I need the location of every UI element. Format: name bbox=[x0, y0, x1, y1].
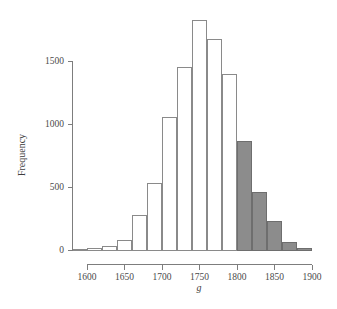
x-axis-title: g bbox=[197, 282, 202, 293]
x-axis-tick-label: 1800 bbox=[228, 272, 247, 282]
histogram-bar bbox=[237, 142, 251, 250]
histogram-bar bbox=[132, 216, 146, 250]
histogram-bar bbox=[267, 221, 281, 250]
histogram-bar bbox=[192, 21, 206, 250]
y-axis-tick-label: 1000 bbox=[45, 119, 64, 129]
histogram-bar bbox=[252, 192, 266, 250]
x-axis-tick-label: 1850 bbox=[265, 272, 284, 282]
histogram-bar bbox=[117, 240, 131, 250]
histogram-bar bbox=[282, 242, 296, 250]
histogram-bar bbox=[222, 75, 236, 250]
x-axis-tick-label: 1700 bbox=[153, 272, 172, 282]
bars-group bbox=[72, 21, 311, 250]
y-axis-tick-label: 1500 bbox=[45, 56, 64, 66]
histogram-figure: 050010001500 160016501700175018001850190… bbox=[0, 0, 337, 309]
y-axis-tick-label: 0 bbox=[59, 245, 64, 255]
histogram-bar bbox=[297, 248, 311, 250]
histogram-bar bbox=[177, 67, 191, 250]
y-axis-title: Frequency bbox=[16, 134, 27, 176]
histogram-bar bbox=[147, 183, 161, 250]
y-ticks-group: 050010001500 bbox=[45, 56, 73, 255]
y-axis-tick-label: 500 bbox=[50, 182, 65, 192]
histogram-bar bbox=[102, 246, 116, 250]
histogram-bar bbox=[87, 248, 101, 250]
histogram-bar bbox=[207, 40, 221, 250]
x-ticks-group: 1600165017001750180018501900 bbox=[78, 265, 322, 283]
histogram-bar bbox=[162, 118, 176, 250]
x-axis-tick-label: 1650 bbox=[115, 272, 134, 282]
histogram-plot: 050010001500 160016501700175018001850190… bbox=[0, 0, 337, 309]
histogram-bar bbox=[72, 249, 86, 250]
x-axis-tick-label: 1600 bbox=[78, 272, 97, 282]
x-axis-tick-label: 1900 bbox=[303, 272, 322, 282]
x-axis-tick-label: 1750 bbox=[190, 272, 209, 282]
